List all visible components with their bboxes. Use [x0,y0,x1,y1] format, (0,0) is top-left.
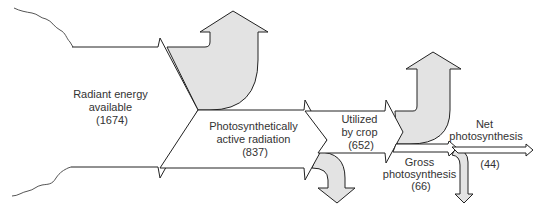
incoming-wave-top [14,8,73,47]
label-net: Net photosynthesis [449,118,523,142]
label-gross: Gross photosynthesis (66) [383,156,459,192]
loss-arrow-par-down [312,152,355,203]
incoming-wave-bottom [12,167,71,196]
energy-flow-diagram: Radiant energy available (1674) Photosyn… [0,0,541,212]
label-net-value: (44) [480,158,500,170]
